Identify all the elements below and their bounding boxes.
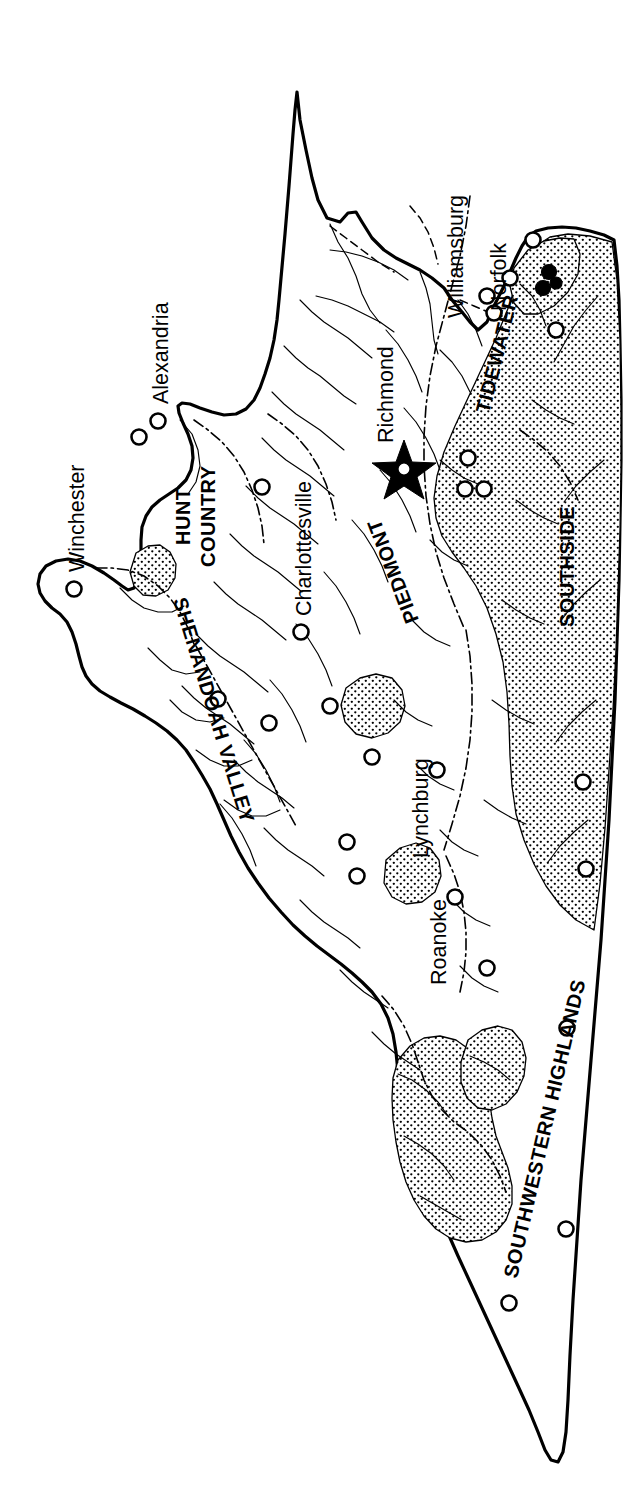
city-marker-open[interactable] — [502, 1296, 517, 1311]
city-marker-winchester[interactable] — [67, 582, 82, 597]
city-label-winchester: Winchester — [65, 464, 89, 572]
city-marker-norfolk[interactable] — [549, 323, 564, 338]
city-marker-open[interactable] — [132, 430, 147, 445]
city-marker-open[interactable] — [480, 961, 495, 976]
city-marker-open[interactable] — [350, 869, 365, 884]
region-label-southside: SOUTHSIDE — [556, 506, 578, 627]
city-marker-open[interactable] — [458, 482, 473, 497]
city-marker-filled[interactable] — [536, 281, 551, 296]
region-label-hunt-country-line2: COUNTRY — [197, 465, 219, 567]
city-marker-charlottesville[interactable] — [294, 625, 309, 640]
region-label-hunt-country-line1: HUNT — [172, 487, 194, 545]
star-center — [398, 463, 410, 475]
city-marker-open[interactable] — [461, 451, 476, 466]
city-marker-open[interactable] — [477, 482, 492, 497]
city-marker-alexandria[interactable] — [151, 414, 166, 429]
virginia-regions-map: Alexandria Winchester Charlottesville Ri… — [0, 0, 629, 1499]
city-label-alexandria: Alexandria — [149, 302, 173, 404]
city-marker-open[interactable] — [576, 775, 591, 790]
city-marker-open[interactable] — [323, 699, 338, 714]
map-canvas: Alexandria Winchester Charlottesville Ri… — [0, 0, 629, 1499]
city-marker-open[interactable] — [255, 480, 270, 495]
city-marker-open[interactable] — [579, 862, 594, 877]
shading-patch-piedmont-north — [130, 545, 176, 596]
city-label-williamsburg: Williamsburg — [444, 195, 468, 318]
city-marker-filled[interactable] — [550, 277, 562, 289]
city-label-roanoke: Roanoke — [427, 899, 451, 985]
city-marker-open[interactable] — [365, 750, 380, 765]
city-label-richmond: Richmond — [374, 346, 398, 443]
city-marker-open[interactable] — [340, 835, 355, 850]
city-marker-open[interactable] — [262, 716, 277, 731]
city-marker-open[interactable] — [526, 233, 541, 248]
city-label-charlottesville: Charlottesville — [292, 481, 316, 616]
city-label-lynchburg: Lynchburg — [409, 758, 433, 858]
city-marker-open[interactable] — [559, 1222, 574, 1237]
